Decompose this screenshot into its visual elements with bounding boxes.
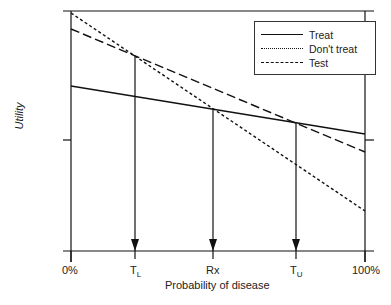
legend: Treat Don't treat Test bbox=[254, 21, 376, 75]
x-tick-0: 0% bbox=[62, 264, 78, 276]
y-axis-label: Utility bbox=[13, 103, 25, 130]
legend-item-dont-treat: Don't treat bbox=[261, 42, 357, 55]
x-tick-tu: TU bbox=[290, 264, 303, 279]
x-axis-label: Probability of disease bbox=[165, 279, 270, 291]
legend-label-treat: Treat bbox=[309, 29, 333, 41]
legend-item-test: Test bbox=[261, 56, 328, 69]
legend-label-test: Test bbox=[309, 57, 328, 69]
solid-line-icon bbox=[261, 34, 303, 35]
legend-label-dont-treat: Don't treat bbox=[309, 43, 357, 55]
dotted-line-icon bbox=[261, 48, 303, 49]
x-tick-tl: TL bbox=[130, 264, 141, 279]
dashed-line-icon bbox=[261, 62, 303, 63]
legend-item-treat: Treat bbox=[261, 28, 333, 41]
x-tick-100: 100% bbox=[352, 264, 380, 276]
x-tick-rx: Rx bbox=[206, 264, 219, 276]
series-treat bbox=[71, 86, 365, 134]
